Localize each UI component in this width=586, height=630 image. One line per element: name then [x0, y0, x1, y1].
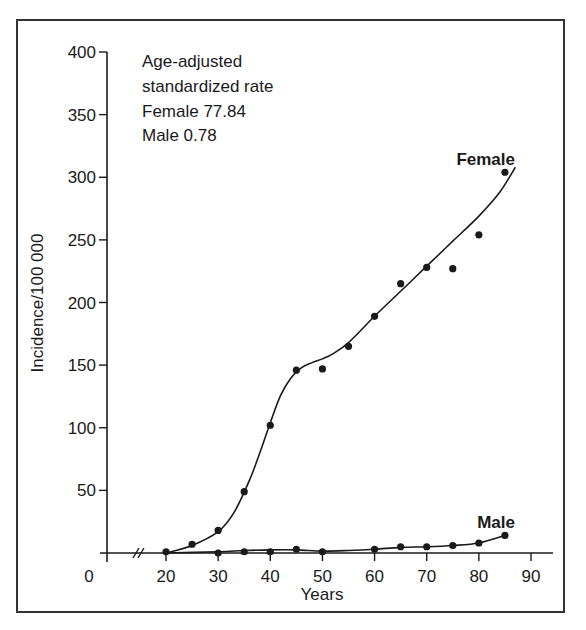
y-tick-label: 100 [68, 419, 96, 438]
y-tick-label: 50 [77, 481, 96, 500]
data-point [397, 280, 404, 287]
data-point [293, 367, 300, 374]
data-point [293, 546, 300, 553]
x-tick-label: 40 [261, 567, 280, 586]
male-series-label: Male [477, 513, 515, 532]
x-tick-label: 90 [522, 567, 541, 586]
data-point [501, 169, 508, 176]
data-point [371, 313, 378, 320]
female-fit-curve [166, 167, 515, 553]
x-tick-label: 70 [417, 567, 436, 586]
y-tick-label: 150 [68, 356, 96, 375]
data-point [449, 265, 456, 272]
x-axis: 02030405060708090 [84, 548, 553, 586]
x-tick-label: 80 [469, 567, 488, 586]
x-tick-label: 20 [157, 567, 176, 586]
data-point [319, 365, 326, 372]
annotation-line: standardized rate [142, 77, 273, 96]
annotation-line: Male 0.78 [142, 126, 217, 145]
data-point [475, 539, 482, 546]
annotation-line: Female 77.84 [142, 102, 246, 121]
data-point [267, 422, 274, 429]
female-series [162, 167, 515, 555]
data-point [501, 532, 508, 539]
data-point [215, 527, 222, 534]
data-point [345, 343, 352, 350]
data-point [188, 541, 195, 548]
data-point [423, 543, 430, 550]
y-tick-label: 250 [68, 231, 96, 250]
y-axis-title: Incidence/100 000 [28, 234, 47, 373]
data-point [371, 546, 378, 553]
data-point [423, 264, 430, 271]
data-point [449, 542, 456, 549]
x-tick-label: 50 [313, 567, 332, 586]
data-point [397, 543, 404, 550]
x-tick-label: 0 [84, 567, 93, 586]
y-tick-label: 300 [68, 168, 96, 187]
x-tick-label: 30 [209, 567, 228, 586]
data-point [267, 548, 274, 555]
y-tick-label: 350 [68, 106, 96, 125]
annotation-line: Age-adjusted [142, 52, 242, 71]
series-layer [162, 167, 515, 556]
data-point [475, 231, 482, 238]
data-point [215, 549, 222, 556]
y-axis: 50100150200250300350400 [68, 43, 107, 562]
data-point [319, 548, 326, 555]
x-axis-title: Years [301, 585, 344, 604]
rate-annotation: Age-adjusted standardized rate Female 77… [142, 52, 273, 145]
data-point [241, 548, 248, 555]
y-tick-label: 200 [68, 294, 96, 313]
y-tick-label: 400 [68, 43, 96, 62]
incidence-chart: 50100150200250300350400 0203040506070809… [0, 0, 586, 630]
data-point [162, 548, 169, 555]
data-point [241, 488, 248, 495]
female-series-label: Female [456, 150, 515, 169]
x-tick-label: 60 [365, 567, 384, 586]
